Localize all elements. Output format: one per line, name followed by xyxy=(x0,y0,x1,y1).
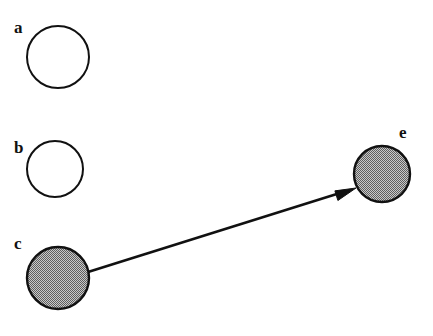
figure-container: abce xyxy=(0,0,433,336)
figure-canvas xyxy=(0,0,433,336)
node-label-b: b xyxy=(14,139,23,156)
edge-c-to-e xyxy=(88,188,356,272)
node-label-c: c xyxy=(14,235,22,252)
node-circle-e[interactable] xyxy=(354,146,410,202)
node-circle-a[interactable] xyxy=(27,26,89,88)
node-circle-c[interactable] xyxy=(27,247,89,309)
arrowhead-c-to-e xyxy=(335,188,356,200)
nodes-layer xyxy=(27,26,410,309)
edges-layer xyxy=(88,188,356,272)
node-label-e: e xyxy=(399,124,407,141)
node-label-a: a xyxy=(14,19,23,36)
edge-line-c-to-e xyxy=(88,193,342,272)
node-circle-b[interactable] xyxy=(27,141,83,197)
